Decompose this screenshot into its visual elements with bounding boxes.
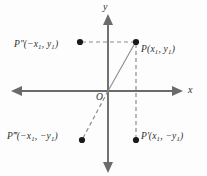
point-p-x-sub: 1 — [155, 48, 159, 55]
x-axis-arrow-right-icon — [172, 86, 183, 96]
point-p-double-prime-marks: ″ — [20, 39, 24, 49]
point-p-triple-prime-marks: ‴ — [13, 131, 17, 141]
point-p-prime-dot — [133, 137, 139, 143]
point-p-double-prime-label: P″(−x1, y1) — [14, 40, 58, 51]
point-p-prime-x-sub: 1 — [157, 135, 161, 142]
point-p-prime-y-sign: − — [165, 131, 172, 141]
point-p-triple-prime-x-sign: − — [20, 131, 27, 141]
connector-origin-to-p — [108, 43, 135, 91]
point-p-triple-prime-label: P‴(−x1, −y1) — [7, 132, 58, 143]
point-p-triple-prime-y-sign: − — [40, 131, 47, 141]
y-axis-label: y — [103, 2, 108, 12]
point-p-triple-prime-y-sub: 1 — [51, 135, 55, 142]
y-axis — [103, 14, 113, 173]
point-p-y-sub: 1 — [168, 48, 172, 55]
point-p-prime-y-sub: 1 — [176, 135, 180, 142]
figure-canvas — [0, 0, 207, 176]
y-axis-arrow-up-icon — [103, 14, 113, 25]
point-p-triple-prime-dot — [79, 137, 85, 143]
point-p-double-prime-y-sub: 1 — [51, 43, 55, 50]
point-p-double-prime-x-sign: − — [27, 39, 34, 49]
y-axis-arrow-down-icon — [103, 162, 113, 173]
point-p-prime-marks: ′ — [147, 131, 149, 141]
x-axis-arrow-left-icon — [11, 86, 22, 96]
point-p-label: P(x1, y1) — [141, 45, 175, 56]
point-p-double-prime-dot — [77, 39, 83, 45]
point-p-dot — [133, 39, 139, 45]
point-p-prime-label: P′(x1, −y1) — [141, 132, 183, 143]
point-p-double-prime-x-sub: 1 — [38, 43, 42, 50]
origin-label: O — [96, 93, 103, 103]
point-p-base: P — [141, 44, 147, 54]
coordinate-plane-figure: y x O P(x1, y1) P″(−x1, y1) P′(x1, −y1) … — [0, 0, 207, 176]
x-axis-label: x — [188, 85, 193, 95]
point-p-triple-prime-x-sub: 1 — [31, 135, 35, 142]
